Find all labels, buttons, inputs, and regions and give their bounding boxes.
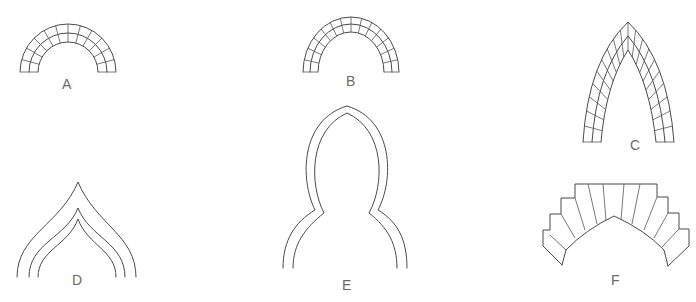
arch-b-label: B bbox=[346, 73, 355, 89]
arch-e: E bbox=[283, 106, 407, 293]
arch-a: A bbox=[20, 24, 116, 92]
arch-f-label: F bbox=[611, 272, 620, 288]
arch-f: F bbox=[543, 184, 689, 288]
arch-c-label: C bbox=[630, 137, 640, 153]
arch-e-label: E bbox=[342, 277, 351, 293]
arch-d: D bbox=[17, 182, 136, 288]
arch-d-label: D bbox=[72, 272, 82, 288]
arch-c: C bbox=[583, 22, 674, 153]
arch-a-label: A bbox=[62, 76, 72, 92]
arch-b: B bbox=[303, 17, 399, 89]
arch-types-figure: A B C D E bbox=[0, 0, 696, 302]
